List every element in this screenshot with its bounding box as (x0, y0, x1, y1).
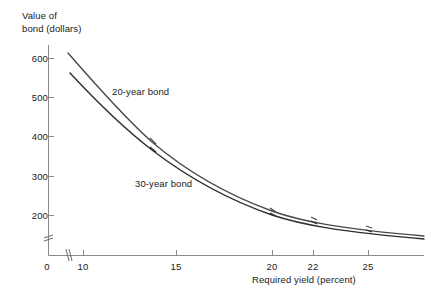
curve-20-year-bond (68, 53, 424, 236)
curve-30-year-bond (70, 73, 424, 239)
y-axis-ticks (49, 59, 55, 216)
data-markers-20-year-bond (150, 138, 372, 228)
data-markers-30-year-bond (150, 147, 372, 232)
bond-value-chart: Value of bond (dollars) Required yield (… (0, 0, 429, 299)
axis-lines (49, 45, 425, 256)
chart-canvas (0, 0, 429, 299)
x-axis-ticks (84, 250, 369, 256)
